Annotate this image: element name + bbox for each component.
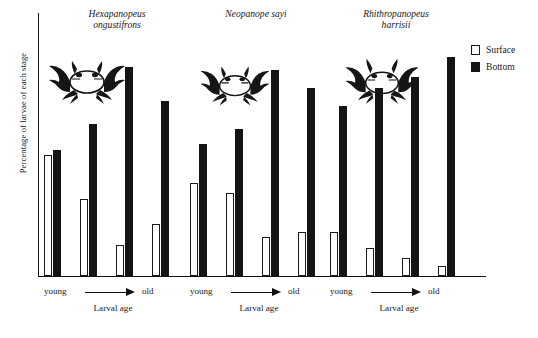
bar-bottom [89,124,97,276]
bar-bottom [271,70,279,276]
axis-young-label-panel3: young [330,286,353,296]
bar-bottom [235,129,243,276]
axis-old-label-panel3: old [428,286,440,296]
bar-surface [330,232,338,276]
legend-item-bottom: Bottom [471,61,515,72]
bars-plot-area [0,0,538,276]
legend: Surface Bottom [471,44,515,78]
axis-young-label-panel1: young [44,286,67,296]
legend-label-bottom: Bottom [486,61,515,72]
axis-young-label-panel2: young [190,286,213,296]
bar-surface [190,183,198,276]
bar-surface [262,237,270,276]
bar-bottom [53,150,61,276]
x-axis-line [38,276,486,277]
legend-item-surface: Surface [471,44,515,55]
age-arrow-panel3 [371,288,421,297]
x-axis-caption-panel1: Larval age [58,303,168,313]
age-arrow-panel1 [85,288,135,297]
legend-swatch-surface-icon [471,45,480,55]
bar-bottom [307,88,315,276]
age-arrow-panel2 [231,288,281,297]
bar-bottom [447,57,455,276]
x-axis-caption-panel3: Larval age [344,303,454,313]
figure-canvas: Percentage of larvae of each stage Hexap… [0,0,538,338]
legend-label-surface: Surface [486,44,515,55]
axis-old-label-panel2: old [288,286,300,296]
bar-bottom [411,77,419,276]
axis-old-label-panel1: old [142,286,154,296]
bar-surface [402,258,410,276]
bar-bottom [125,67,133,276]
bar-surface [298,232,306,276]
bar-surface [44,155,52,276]
bar-surface [152,224,160,276]
legend-swatch-bottom-icon [471,62,480,72]
bar-surface [116,245,124,276]
bar-surface [226,193,234,276]
bar-bottom [375,88,383,276]
bar-bottom [199,144,207,276]
bar-bottom [161,101,169,276]
bar-surface [366,248,374,276]
bar-surface [80,199,88,276]
bar-surface [438,266,446,276]
bar-bottom [339,106,347,276]
x-axis-caption-panel2: Larval age [204,303,314,313]
